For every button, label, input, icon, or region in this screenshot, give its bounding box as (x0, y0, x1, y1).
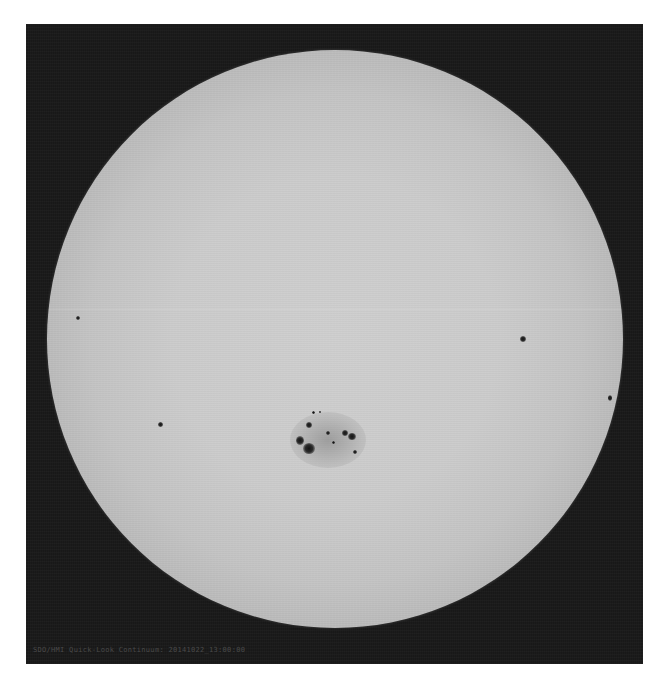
sunspot-umbra (296, 436, 304, 445)
sunspot-southeast (158, 422, 163, 427)
sunspot-west (520, 336, 526, 342)
sunspot-umbra (348, 433, 356, 440)
sunspot-umbra (312, 411, 315, 414)
sunspot-umbra (319, 411, 321, 413)
sunspot-limb-west (608, 395, 612, 401)
solar-disk (47, 50, 623, 628)
image-caption: SDO/HMI Quick-Look Continuum: 20141022_1… (33, 646, 245, 654)
sunspot-umbra (306, 422, 312, 428)
scan-artifact-line (47, 309, 623, 310)
sunspot-umbra (332, 441, 335, 444)
sunspot-umbra (353, 450, 357, 454)
sunspot-umbra (326, 431, 330, 435)
sunspot-umbra (303, 443, 315, 454)
sunspot-east (76, 316, 80, 320)
image-frame (26, 24, 643, 664)
